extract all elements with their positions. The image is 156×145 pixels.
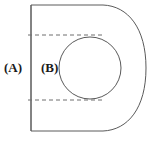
label-a: (A) xyxy=(4,61,22,74)
inner-circle xyxy=(59,37,121,99)
technical-drawing xyxy=(0,0,156,145)
figure-container: (A) (B) xyxy=(0,0,156,145)
label-b: (B) xyxy=(41,61,58,74)
